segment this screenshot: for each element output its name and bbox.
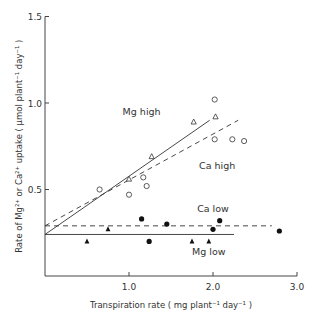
point-ca-low	[139, 216, 144, 221]
series-label-ca-low: Ca low	[197, 203, 229, 214]
point-mg-high	[213, 114, 218, 119]
x-axis-title: Transpiration rate ( mg plant⁻¹ day⁻¹ )	[89, 300, 252, 310]
point-ca-high	[144, 183, 149, 188]
y-tick-label: 0.5	[28, 185, 42, 195]
point-ca-high	[141, 175, 146, 180]
point-ca-high	[126, 192, 131, 197]
y-tick-label: 1.0	[28, 99, 43, 109]
point-ca-low	[217, 218, 222, 223]
point-ca-low	[277, 228, 282, 233]
series-label-mg-high: Mg high	[123, 106, 161, 117]
point-mg-low	[85, 238, 90, 243]
point-mg-high	[149, 154, 154, 159]
chart: 0.51.01.51.02.03.0Transpiration rate ( m…	[0, 0, 309, 315]
point-mg-low	[106, 226, 111, 231]
fit-lines	[45, 120, 272, 234]
x-tick-label: 1.0	[122, 282, 137, 292]
axis-labels: 0.51.01.51.02.03.0Transpiration rate ( m…	[14, 12, 304, 310]
point-ca-low	[147, 239, 152, 244]
point-ca-high	[212, 137, 217, 142]
point-ca-high	[97, 187, 102, 192]
point-ca-low	[164, 222, 169, 227]
data-points	[85, 97, 282, 244]
y-axis-title: Rate of Mg²⁺ or Ca²⁺ uptake ( µmol plant…	[14, 40, 24, 253]
fit-line-mg-high	[45, 120, 210, 234]
series-label-ca-high: Ca high	[199, 160, 235, 171]
point-ca-high	[230, 137, 235, 142]
point-mg-low	[190, 238, 195, 243]
point-ca-high	[241, 138, 246, 143]
axes	[45, 17, 297, 277]
x-tick-label: 2.0	[206, 282, 221, 292]
point-mg-low	[206, 238, 211, 243]
y-tick-label: 1.5	[28, 12, 42, 22]
series-label-mg-low: Mg low	[192, 246, 226, 257]
x-tick-label: 3.0	[290, 282, 305, 292]
point-ca-high	[212, 97, 217, 102]
point-mg-high	[126, 176, 131, 181]
point-ca-low	[210, 227, 215, 232]
point-mg-high	[191, 119, 196, 124]
